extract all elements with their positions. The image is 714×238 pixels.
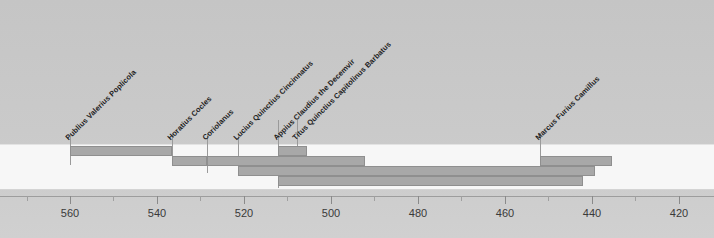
x-axis-label-540: 540	[148, 207, 166, 219]
x-axis-label-420: 420	[670, 207, 688, 219]
x-axis-minor-tick	[27, 196, 28, 201]
bar-publius-valerius-poplicola[interactable]	[70, 146, 172, 156]
bar-horatius-cocles[interactable]	[172, 156, 207, 166]
bar-lucius-quinctius-cincinnatus[interactable]	[278, 176, 583, 186]
x-axis-minor-tick	[374, 196, 375, 201]
timeline-chart: Publius Valerius Poplicola Horatius Cocl…	[0, 0, 714, 238]
label-coriolanus: Coriolanus	[201, 107, 236, 142]
x-axis-minor-tick	[200, 196, 201, 201]
label-titus-quinctius-capitolinus-barbatus: Titus Quinctius Capitolinus Barbatus	[291, 40, 393, 142]
x-axis-label-440: 440	[583, 207, 601, 219]
x-axis-tick-460	[505, 196, 506, 204]
bar-coriolanus[interactable]	[238, 166, 595, 176]
bar-titus-quinctius-capitolinus-barbatus[interactable]	[207, 156, 365, 166]
x-axis-tick-420	[679, 196, 680, 204]
x-axis-tick-560	[70, 196, 71, 204]
x-axis-tick-500	[331, 196, 332, 204]
x-axis-minor-tick	[113, 196, 114, 201]
label-marcus-furius-camillus: Marcus Furius Camillus	[534, 74, 602, 142]
x-axis-minor-tick	[287, 196, 288, 201]
x-axis-label-480: 480	[409, 207, 427, 219]
x-axis-label-520: 520	[235, 207, 253, 219]
x-axis-tick-480	[418, 196, 419, 204]
x-axis-minor-tick	[548, 196, 549, 201]
x-axis-line	[0, 196, 714, 197]
bar-marcus-furius-camillus[interactable]	[540, 156, 612, 166]
label-appius-claudius-the-decemvir: Appius Claudius the Decemvir	[272, 57, 357, 142]
x-axis-label-460: 460	[496, 207, 514, 219]
x-axis-tick-540	[157, 196, 158, 204]
x-axis-tick-440	[592, 196, 593, 204]
x-axis-tick-520	[244, 196, 245, 204]
x-axis-label-500: 500	[322, 207, 340, 219]
x-axis-minor-tick	[461, 196, 462, 201]
label-publius-valerius-poplicola: Publius Valerius Poplicola	[64, 68, 138, 142]
x-axis-label-560: 560	[61, 207, 79, 219]
x-axis-minor-tick	[635, 196, 636, 201]
bar-appius-claudius-the-decemvir[interactable]	[278, 146, 307, 156]
